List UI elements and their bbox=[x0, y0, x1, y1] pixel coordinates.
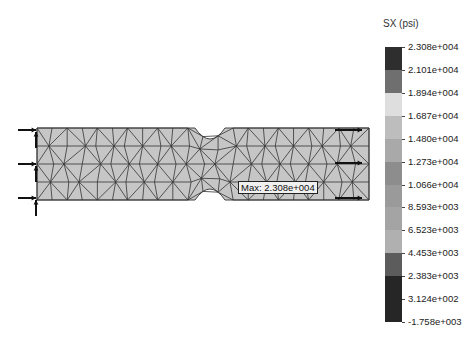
legend-label: 1.066e+004 bbox=[408, 179, 458, 190]
mesh-edge bbox=[203, 191, 218, 192]
legend-tick bbox=[402, 276, 405, 277]
legend-tick bbox=[402, 47, 405, 48]
legend-tick bbox=[402, 322, 405, 323]
legend-band bbox=[385, 253, 402, 276]
legend-tick bbox=[402, 253, 405, 254]
legend-band bbox=[385, 139, 402, 162]
legend-tick bbox=[402, 230, 405, 231]
legend-band bbox=[385, 116, 402, 139]
legend-label: 1.687e+004 bbox=[408, 110, 458, 121]
legend-tick bbox=[402, 139, 405, 140]
legend-band bbox=[385, 207, 402, 230]
legend-band bbox=[385, 230, 402, 253]
legend-label: 4.453e+003 bbox=[408, 247, 458, 258]
legend-label: 2.383e+003 bbox=[408, 270, 458, 281]
legend-tick bbox=[402, 116, 405, 117]
mesh-edge bbox=[203, 136, 218, 137]
legend-band bbox=[385, 162, 402, 185]
fixture-arrow-icon bbox=[18, 162, 36, 167]
legend-band bbox=[385, 93, 402, 116]
legend-tick bbox=[402, 93, 405, 94]
legend-title: SX (psi) bbox=[383, 18, 419, 29]
legend-color-bar bbox=[385, 47, 402, 322]
legend-band bbox=[385, 185, 402, 208]
legend-tick bbox=[402, 70, 405, 71]
legend-label: 2.101e+004 bbox=[408, 64, 458, 75]
legend-label: 8.593e+003 bbox=[408, 201, 458, 212]
legend-tick bbox=[402, 162, 405, 163]
legend-label: 3.124e+002 bbox=[408, 293, 458, 304]
legend-tick bbox=[402, 207, 405, 208]
max-annotation: Max: 2.308e+004 bbox=[238, 181, 318, 194]
legend-label: 6.523e+003 bbox=[408, 224, 458, 235]
legend-band bbox=[385, 299, 402, 322]
fixture-arrow-icon bbox=[18, 196, 36, 201]
fixtures bbox=[18, 128, 38, 216]
legend-label: 2.308e+004 bbox=[408, 41, 458, 52]
legend-label: -1.758e+003 bbox=[408, 316, 462, 327]
legend-band bbox=[385, 276, 402, 299]
legend-band bbox=[385, 70, 402, 93]
legend-band bbox=[385, 47, 402, 70]
legend-label: 1.480e+004 bbox=[408, 133, 458, 144]
legend-label: 1.894e+004 bbox=[408, 87, 458, 98]
legend-tick bbox=[402, 185, 405, 186]
fixture-arrow-icon bbox=[18, 128, 36, 133]
legend-tick bbox=[402, 299, 405, 300]
legend-label: 1.273e+004 bbox=[408, 156, 458, 167]
fixture-arrow-icon bbox=[34, 200, 39, 216]
